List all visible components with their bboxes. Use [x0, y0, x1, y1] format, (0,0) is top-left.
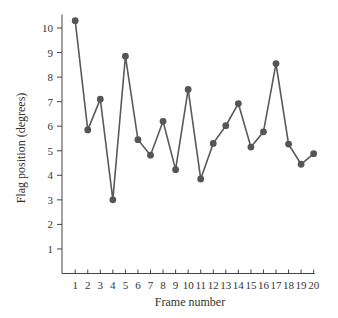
data-point [172, 166, 179, 173]
axes [62, 14, 315, 273]
x-tick-label: 7 [148, 279, 154, 291]
data-point [160, 118, 167, 125]
data-point [185, 86, 192, 93]
data-point [109, 196, 116, 203]
x-tick-label: 1 [72, 279, 78, 291]
data-point [222, 122, 229, 129]
y-tick-label: 8 [48, 71, 54, 83]
data-point [135, 136, 142, 143]
y-tick-label: 5 [48, 145, 54, 157]
data-point [260, 128, 267, 135]
x-tick-label: 13 [220, 279, 232, 291]
y-tick-label: 4 [48, 169, 54, 181]
data-point [310, 150, 317, 157]
data-point [84, 126, 91, 133]
x-tick-label: 18 [283, 279, 295, 291]
x-tick-label: 5 [123, 279, 129, 291]
x-axis-title: Frame number [155, 295, 225, 309]
x-tick-label: 6 [135, 279, 141, 291]
y-tick-label: 9 [48, 47, 54, 59]
data-markers [72, 17, 317, 203]
line-chart: 12345678910 1234567891011121314151617181… [0, 0, 338, 318]
x-tick-label: 16 [258, 279, 270, 291]
data-point [72, 17, 79, 24]
data-point [273, 60, 280, 67]
x-tick-label: 3 [98, 279, 104, 291]
data-point [197, 176, 204, 183]
data-point [285, 141, 292, 148]
x-axis-ticks: 1234567891011121314151617181920 [72, 270, 319, 291]
data-point [97, 96, 104, 103]
x-tick-label: 19 [296, 279, 308, 291]
x-tick-label: 15 [245, 279, 257, 291]
x-tick-label: 8 [160, 279, 166, 291]
x-tick-label: 10 [183, 279, 195, 291]
x-tick-label: 20 [308, 279, 320, 291]
y-tick-label: 10 [42, 22, 54, 34]
data-point [298, 161, 305, 168]
y-tick-label: 1 [48, 243, 54, 255]
x-tick-label: 4 [110, 279, 116, 291]
y-axis-title: Flag position (degrees) [14, 93, 28, 204]
data-point [122, 53, 129, 60]
x-tick-label: 14 [233, 279, 245, 291]
x-tick-label: 9 [173, 279, 179, 291]
y-tick-label: 7 [48, 96, 54, 108]
y-tick-label: 2 [48, 218, 54, 230]
x-tick-label: 12 [208, 279, 219, 291]
data-point [210, 140, 217, 147]
y-axis-ticks: 12345678910 [42, 22, 62, 255]
data-point [147, 152, 154, 159]
x-tick-label: 17 [271, 279, 283, 291]
data-point [235, 100, 242, 107]
y-tick-label: 3 [48, 194, 54, 206]
x-tick-label: 11 [195, 279, 206, 291]
data-point [248, 144, 255, 151]
x-tick-label: 2 [85, 279, 91, 291]
data-line [75, 21, 313, 200]
y-tick-label: 6 [48, 120, 54, 132]
